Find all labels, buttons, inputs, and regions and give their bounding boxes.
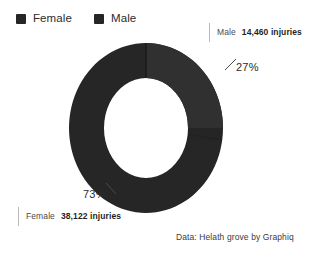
- chart-source: Data: Helath grove by Graphiq: [176, 232, 294, 242]
- percent-label-male: 27%: [236, 62, 259, 73]
- legend-label-female: Female: [33, 13, 72, 25]
- callout-male: Male 14,460 injuries: [209, 23, 302, 42]
- chart-legend: Female Male: [16, 13, 136, 25]
- callout-female-text: Female 38,122 injuries: [26, 207, 121, 226]
- callout-rule-icon: [18, 207, 19, 226]
- callout-male-category: Male: [217, 28, 236, 38]
- callout-female-category: Female: [26, 212, 55, 222]
- chart-page: Female Male: [0, 0, 310, 254]
- callout-female: Female 38,122 injuries: [18, 207, 121, 226]
- donut-slice-male[interactable]: [146, 43, 223, 128]
- square-swatch-icon: [16, 14, 26, 24]
- square-swatch-icon: [94, 14, 104, 24]
- callout-rule-icon: [209, 23, 210, 42]
- callout-female-value: 38,122 injuries: [61, 212, 121, 222]
- callout-male-value: 14,460 injuries: [242, 28, 302, 38]
- legend-item-female[interactable]: Female: [16, 13, 72, 25]
- legend-item-male[interactable]: Male: [94, 13, 136, 25]
- legend-label-male: Male: [111, 13, 136, 25]
- callout-male-text: Male 14,460 injuries: [217, 23, 302, 42]
- percent-label-female: 73%: [83, 189, 106, 200]
